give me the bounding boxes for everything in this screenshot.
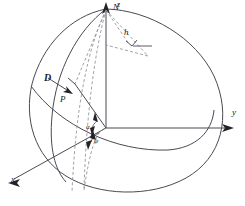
right-angle-marker-group	[126, 40, 152, 46]
north-pole-label: N	[113, 3, 119, 12]
equator-front-arc	[31, 86, 214, 150]
psi-arrowhead-lower-icon	[86, 140, 92, 150]
dashed-construction-group	[72, 10, 148, 192]
point-p-label: P	[60, 95, 66, 104]
spherical-geometry-figure: z y x N P D h α ψ	[0, 0, 245, 206]
dashed-meridian-a	[72, 10, 106, 192]
dashed-foot-to-axis	[106, 45, 148, 56]
alpha-angle-label: α	[86, 124, 90, 131]
dashed-meridian-b	[84, 10, 106, 190]
right-angle-icon	[126, 40, 137, 46]
direction-vector-group	[48, 78, 73, 94]
radius-group	[68, 78, 106, 128]
direction-vector-label: D	[44, 73, 51, 83]
figure-canvas	[0, 0, 245, 206]
x-axis-label: x	[11, 175, 15, 184]
psi-angle-label: ψ	[94, 138, 98, 145]
axes-group	[8, 2, 234, 187]
p-point-tick	[68, 78, 75, 84]
y-axis-label: y	[232, 108, 236, 117]
height-label: h	[124, 28, 129, 37]
d-vector-arrowhead-icon	[63, 86, 73, 94]
